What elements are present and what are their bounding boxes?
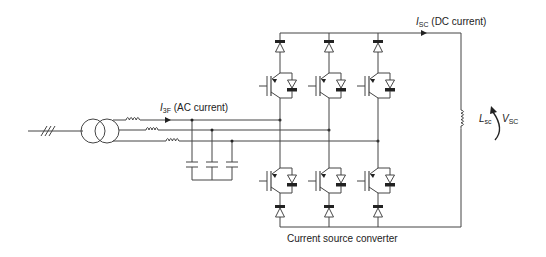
dc-current-arrow-icon <box>421 30 427 36</box>
ac-inductor-icons <box>126 118 179 142</box>
circuit-diagram <box>0 0 546 257</box>
dc-current-label: ISC (DC current) <box>416 17 486 28</box>
dc-inductor-icon <box>461 110 464 129</box>
ac-phase-lines <box>113 120 378 141</box>
inductor-label: Lsc <box>479 114 492 125</box>
converter-leg-3 <box>357 33 395 227</box>
voltage-label: VSC <box>502 114 518 125</box>
wiring <box>28 126 83 136</box>
converter-caption: Current source converter <box>287 234 398 244</box>
transformer-icon <box>81 119 119 143</box>
voltage-arrow-icon <box>493 112 500 140</box>
ac-current-label: I3F (AC current) <box>160 103 228 114</box>
ac-current-arrow-icon <box>165 117 171 123</box>
